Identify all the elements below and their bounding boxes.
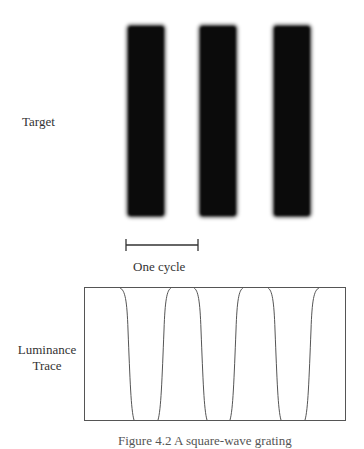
luminance-trace-box	[85, 288, 346, 421]
luminance-label-line2: Trace	[17, 358, 77, 374]
figure-caption: Figure 4.2 A square-wave grating	[118, 433, 292, 449]
luminance-trace-label: Luminance Trace	[17, 342, 77, 374]
luminance-label-line1: Luminance	[17, 342, 77, 358]
one-cycle-scale-bar	[126, 239, 198, 251]
luminance-waveform	[120, 288, 319, 420]
one-cycle-label: One cycle	[133, 259, 185, 275]
